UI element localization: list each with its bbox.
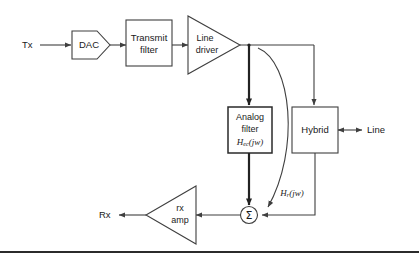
block-analog-filter-label-line1: Analog [236, 112, 264, 122]
block-rx-amp-label-line2: amp [171, 215, 189, 225]
block-line-driver-label-line2: driver [196, 45, 219, 55]
block-transmit-filter-label-line1: Transmit [131, 32, 168, 43]
analog-filter-formula-rest: (jw) [249, 137, 264, 147]
block-analog-filter-transfer-function: Hec(jw) [236, 137, 264, 148]
summing-junction-symbol: Σ [246, 209, 253, 222]
port-label-rx: Rx [99, 209, 111, 220]
block-transmit-filter-label-line2: filter [140, 44, 158, 55]
echo-path-transfer-function: Hr(jw) [279, 188, 303, 199]
block-rx-amp-label-line1: rx [176, 203, 184, 213]
block-dac-label: DAC [79, 39, 99, 50]
port-label-line: Line [367, 124, 385, 135]
block-diagram-svg: Tx DAC Transmit filter Line driver Analo… [0, 0, 419, 260]
port-label-tx: Tx [22, 39, 33, 50]
block-analog-filter-label-line2: filter [241, 124, 258, 134]
wire-hybrid-to-summer [262, 153, 315, 215]
block-diagram-canvas: Tx DAC Transmit filter Line driver Analo… [0, 0, 419, 260]
echo-path-formula-rest: (jw) [289, 188, 304, 198]
block-line-driver-label-line1: Line [196, 33, 213, 43]
footer-divider [0, 251, 419, 253]
block-hybrid-label: Hybrid [301, 124, 328, 135]
